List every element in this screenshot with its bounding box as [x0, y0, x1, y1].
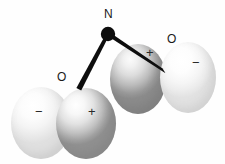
atom-label-oxygen-left: O: [57, 71, 66, 83]
atom-label-oxygen-right: O: [167, 33, 176, 45]
molecular-orbital-figure: − + + − N O O: [0, 0, 225, 164]
bond-layer: [0, 0, 225, 164]
bond-n-o-left-icon: [76, 33, 110, 91]
atom-label-nitrogen: N: [104, 8, 113, 20]
nitrogen-nucleus-icon: [101, 27, 115, 41]
bond-n-o-right-icon: [107, 31, 166, 74]
